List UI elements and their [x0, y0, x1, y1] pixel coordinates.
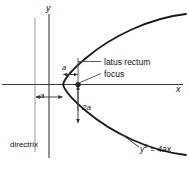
two-a-label: 2a: [82, 104, 91, 112]
focus-label: focus: [104, 70, 124, 79]
y-axis-label: y: [46, 4, 51, 13]
a-lower-label: a: [40, 92, 44, 100]
equation-label: y2 = 4ax: [140, 143, 171, 153]
equation-rest: = 4ax: [148, 144, 171, 154]
directrix-label: directrix: [10, 141, 38, 149]
x-axis-label: x: [176, 85, 181, 94]
a-upper-label: a: [62, 64, 66, 72]
focus-leader: [80, 74, 101, 83]
equation-leader: [120, 133, 139, 147]
latus-rectum-label: latus rectum: [104, 58, 150, 67]
parabola-figure: latus rectum focus directrix y x a a 2a …: [0, 0, 189, 172]
